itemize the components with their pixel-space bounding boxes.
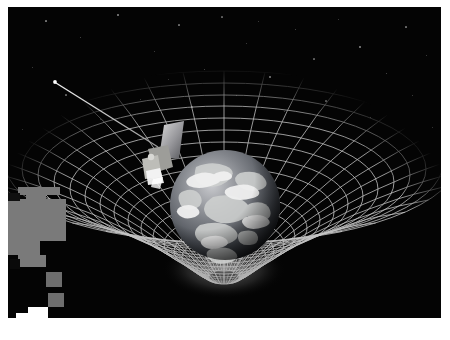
satellite-dish-icon [148, 154, 154, 160]
gravity-well-graphic [8, 7, 441, 318]
occlusion-block-3 [8, 199, 66, 241]
occlusion-block-5 [8, 241, 40, 255]
occlusion-block-8 [48, 293, 64, 307]
occlusion-block-1 [18, 187, 60, 195]
occlusion-block-9 [28, 307, 48, 318]
page-root [0, 0, 450, 340]
occlusion-block-4 [8, 193, 20, 201]
satellite-boom-tip-icon [53, 80, 57, 84]
occlusion-block-7 [46, 272, 62, 287]
occlusion-block-10 [16, 313, 30, 318]
satellite-boom-antenna [56, 83, 158, 147]
spacetime-curvature-figure [8, 7, 441, 318]
occlusion-block-6 [18, 255, 46, 267]
occlusion-block-11 [10, 259, 20, 269]
